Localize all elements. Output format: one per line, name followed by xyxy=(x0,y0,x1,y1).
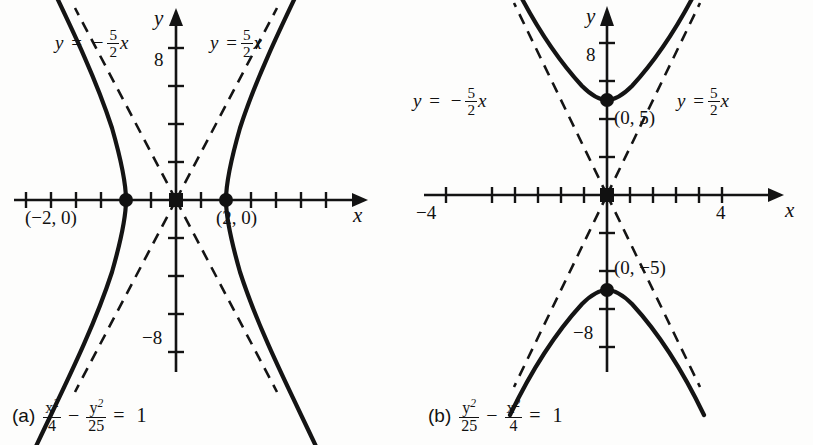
asym-a-neg-eq: = xyxy=(68,32,85,53)
asym-b-pos-fraction: 52 xyxy=(708,85,720,118)
asym-b-neg-numerator: 5 xyxy=(465,85,477,101)
panel-b-plot xyxy=(400,0,813,380)
y-axis-label-a: y xyxy=(154,8,163,29)
asym-a-pos-fraction: 52 xyxy=(241,27,253,60)
y-tick-label-neg8-a: −8 xyxy=(142,328,162,347)
y-axis-arrow-b xyxy=(600,6,614,26)
asym-b-pos-denominator: 2 xyxy=(708,101,720,118)
caption-a-sup-1: 2 xyxy=(53,397,59,409)
asymptote-label-positive-b: y =52x xyxy=(677,85,729,118)
caption-a-equation: x24−y225=1 xyxy=(42,404,152,426)
asym-b-neg-denominator: 2 xyxy=(465,101,477,118)
y-axis-label-b: y xyxy=(586,6,595,27)
caption-b-equals: = xyxy=(523,404,546,426)
asym-b-neg-sign: − xyxy=(448,90,465,111)
caption-b-fraction-2: x24 xyxy=(505,398,523,435)
caption-b-rhs: 1 xyxy=(547,404,569,426)
caption-a-fraction-1: x24 xyxy=(43,398,61,435)
origin-marker-b xyxy=(600,188,614,202)
caption-a-num-2: y2 xyxy=(86,398,106,417)
origin-marker-a xyxy=(169,193,183,207)
asym-a-pos-var: x xyxy=(254,32,262,53)
asymptote-positive-slope-b-lower xyxy=(514,195,607,387)
caption-b: (b)y225−x24=1 xyxy=(428,398,569,435)
point-label-0-neg5: (0, −5) xyxy=(614,258,666,277)
panel-a-hyperbola-horizontal: x y 8 −8 (−2, 0) (2, 0) y = −52x y =52x … xyxy=(0,0,400,445)
asym-a-neg-denominator: 2 xyxy=(107,43,119,60)
asym-a-neg-fraction: 52 xyxy=(107,27,119,60)
asym-b-pos-var: x xyxy=(721,90,729,111)
caption-b-tag: (b) xyxy=(428,405,451,426)
caption-b-minus: − xyxy=(480,404,503,426)
asym-b-pos-eq: = xyxy=(690,90,707,111)
y-tick-label-8-b: 8 xyxy=(586,45,596,64)
caption-b-sup-2: 2 xyxy=(515,397,521,409)
vertex-dot-2-0 xyxy=(219,193,233,207)
asym-b-pos-lhs: y xyxy=(677,90,685,111)
point-label-0-5: (0, 5) xyxy=(614,108,655,127)
vertex-dot-0-neg5 xyxy=(600,283,614,297)
asymptote-negative-slope-b-lower xyxy=(607,195,700,387)
asym-b-neg-lhs: y xyxy=(413,90,421,111)
caption-a-equals: = xyxy=(107,404,130,426)
y-tick-label-neg8-b: −8 xyxy=(573,323,593,342)
caption-a-den-1: 4 xyxy=(43,417,61,435)
asym-a-neg-sign: − xyxy=(90,32,107,53)
caption-b-num-1: y2 xyxy=(459,398,479,417)
panel-b-hyperbola-vertical: x y 8 −8 −4 4 (0, 5) (0, −5) y = −52x y … xyxy=(400,0,813,445)
asym-b-pos-numerator: 5 xyxy=(708,85,720,101)
vertex-dot-0-5 xyxy=(600,93,614,107)
caption-b-den-1: 25 xyxy=(459,417,479,435)
asym-a-pos-denominator: 2 xyxy=(241,43,253,60)
caption-a-rhs: 1 xyxy=(131,404,153,426)
asymptote-positive-slope-a-lower xyxy=(75,200,176,392)
asym-a-pos-lhs: y xyxy=(210,32,218,53)
asym-a-neg-numerator: 5 xyxy=(107,27,119,43)
caption-a-fraction-2: y225 xyxy=(86,398,106,435)
asymptote-label-negative-b: y = −52x xyxy=(413,85,486,118)
x-tick-label-neg4-b: −4 xyxy=(416,203,436,222)
asymptote-negative-slope-a-lower xyxy=(176,200,277,392)
y-tick-label-8-a: 8 xyxy=(154,50,164,69)
asymptote-negative-slope-b xyxy=(514,3,607,195)
asymptote-label-positive-a: y =52x xyxy=(210,27,262,60)
asym-a-pos-eq: = xyxy=(223,32,240,53)
caption-a-den-2: 25 xyxy=(86,417,106,435)
caption-b-fraction-1: y225 xyxy=(459,398,479,435)
x-axis-arrow-b xyxy=(768,188,784,202)
asym-a-neg-var: x xyxy=(120,32,128,53)
point-label-neg2-0: (−2, 0) xyxy=(25,208,77,227)
caption-b-sup-1: 2 xyxy=(470,397,476,409)
x-axis-label-a: x xyxy=(353,205,362,226)
asym-b-neg-fraction: 52 xyxy=(465,85,477,118)
point-label-2-0: (2, 0) xyxy=(216,208,257,227)
asymptote-label-negative-a: y = −52x xyxy=(55,27,128,60)
asym-b-neg-var: x xyxy=(478,90,486,111)
caption-b-equation: y225−x24=1 xyxy=(458,404,568,426)
x-tick-label-4-b: 4 xyxy=(716,203,726,222)
caption-a-minus: − xyxy=(62,404,85,426)
asym-a-pos-numerator: 5 xyxy=(241,27,253,43)
asym-a-neg-lhs: y xyxy=(55,32,63,53)
y-axis-arrow-a xyxy=(169,8,183,26)
hyperbola-figure: x y 8 −8 (−2, 0) (2, 0) y = −52x y =52x … xyxy=(0,0,813,445)
x-axis-label-b: x xyxy=(785,200,794,221)
caption-b-num-2: x2 xyxy=(505,398,523,417)
caption-a-tag: (a) xyxy=(12,405,35,426)
vertex-dot-neg2-0 xyxy=(119,193,133,207)
caption-a-sup-2: 2 xyxy=(97,397,103,409)
caption-a: (a)x24−y225=1 xyxy=(12,398,153,435)
caption-a-num-1: x2 xyxy=(43,398,61,417)
asym-b-neg-eq: = xyxy=(426,90,443,111)
caption-b-den-2: 4 xyxy=(505,417,523,435)
